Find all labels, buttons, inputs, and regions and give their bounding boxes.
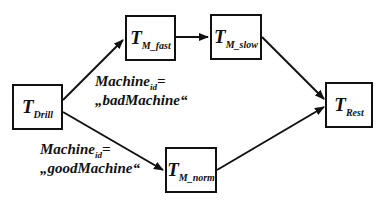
node-m-fast: TM_fast <box>125 15 176 61</box>
node-rest: TRest <box>325 82 373 128</box>
cond-good-sub: id <box>95 150 102 160</box>
node-m-slow-main: T <box>214 26 226 47</box>
process-diagram: TDrill TM_fast TM_slow TM_norm TRest Mac… <box>0 0 382 204</box>
edge-mslow-to-rest <box>262 37 324 99</box>
cond-bad-sub: id <box>150 82 157 92</box>
cond-bad-value: „badMachine“ <box>95 92 188 109</box>
node-drill-sub: Drill <box>34 109 53 120</box>
edge-mnorm-to-rest <box>217 107 324 170</box>
condition-good-machine: Machineid= „goodMachine“ <box>40 141 140 177</box>
cond-bad-var: Machine <box>95 73 150 89</box>
node-rest-sub: Rest <box>346 107 364 118</box>
node-m-norm-main: T <box>167 159 179 180</box>
node-m-fast-sub: M_fast <box>142 40 171 51</box>
node-m-fast-main: T <box>130 27 142 48</box>
node-m-norm-sub: M_norm <box>179 172 215 183</box>
node-drill: TDrill <box>12 84 63 130</box>
cond-bad-op: = <box>157 73 166 89</box>
node-drill-main: T <box>22 96 34 117</box>
cond-good-op: = <box>102 141 111 157</box>
condition-bad-machine: Machineid= „badMachine“ <box>95 73 188 109</box>
cond-good-value: „goodMachine“ <box>40 160 140 177</box>
node-m-norm: TM_norm <box>165 147 217 193</box>
cond-good-var: Machine <box>40 141 95 157</box>
node-m-slow: TM_slow <box>210 14 262 60</box>
node-rest-main: T <box>334 94 346 115</box>
node-m-slow-sub: M_slow <box>226 39 258 50</box>
